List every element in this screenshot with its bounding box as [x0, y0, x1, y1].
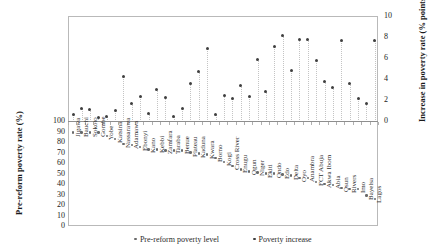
axis-tick-mark — [210, 122, 211, 125]
data-point-poverty-increase — [256, 58, 259, 61]
stem-line — [358, 99, 359, 122]
stem-line — [249, 97, 250, 122]
category-label: Ondo — [276, 162, 283, 178]
axis-tick-mark — [177, 122, 178, 125]
right-axis-tick: 0 — [384, 117, 388, 125]
category-label: Borno — [217, 144, 224, 162]
axis-tick-mark — [169, 122, 170, 125]
axis-tick-mark — [277, 122, 278, 125]
category-label: Osun — [343, 177, 350, 192]
left-axis-title: Pre-reform poverty rate (%) — [14, 103, 24, 223]
axis-tick-mark — [319, 122, 320, 125]
stem-line — [165, 98, 166, 122]
axis-tick-mark — [370, 122, 371, 125]
legend-item-pre-reform-poverty-level: Pre-reform poverty level — [134, 235, 219, 244]
stem-line — [224, 96, 225, 122]
data-point-poverty-increase — [197, 70, 200, 73]
category-label: Delta — [293, 164, 300, 179]
axis-tick-mark — [353, 122, 354, 125]
axis-tick-mark — [344, 122, 345, 125]
right-axis-tick: 10 — [384, 12, 392, 20]
data-point-poverty-increase — [315, 59, 318, 62]
axis-tick-mark — [160, 122, 161, 125]
axis-tick-mark — [361, 122, 362, 125]
category-label: Katsina — [117, 121, 124, 142]
category-label: Adamawa — [133, 121, 140, 149]
category-label: Imo — [360, 182, 367, 193]
category-label: Ekiti — [267, 164, 274, 178]
axis-tick-mark — [143, 122, 144, 125]
data-point-poverty-increase — [164, 96, 167, 99]
data-point-poverty-increase — [189, 82, 192, 85]
data-point-poverty-increase — [348, 82, 351, 85]
category-label: Rivers — [351, 175, 358, 193]
left-axis-tick-labels: 1009080706050403020100 — [40, 0, 65, 249]
data-point-poverty-increase — [114, 109, 117, 112]
category-label: Lagos — [376, 186, 383, 203]
category-label: Kebbi — [159, 136, 166, 153]
data-point-poverty-increase — [231, 97, 234, 100]
data-point-poverty-increase — [239, 84, 242, 87]
data-point-poverty-increase — [281, 34, 284, 37]
data-point-poverty-increase — [72, 113, 75, 116]
axis-tick-mark — [152, 122, 153, 125]
axis-tick-mark — [303, 122, 304, 125]
left-axis-tick: 40 — [57, 180, 65, 188]
category-label: Gombe — [100, 116, 107, 137]
category-label: Ogun — [251, 160, 258, 176]
left-axis-tick: 50 — [57, 170, 65, 178]
right-axis-tick: 8 — [384, 33, 388, 41]
axis-tick-mark — [68, 122, 69, 125]
axis-tick-mark — [252, 122, 253, 125]
category-label: Sokoto — [92, 117, 99, 137]
data-point-poverty-increase — [298, 38, 301, 41]
stem-line — [199, 72, 200, 122]
category-label: Kano — [150, 138, 157, 153]
axis-tick-mark — [378, 122, 379, 125]
data-point-poverty-increase — [155, 88, 158, 91]
chart-figure: Pre-reform poverty rate (%) Increase in … — [0, 0, 442, 249]
data-point-poverty-increase — [340, 39, 343, 42]
left-axis-tick: 30 — [57, 191, 65, 199]
axis-tick-mark — [219, 122, 220, 125]
data-point-poverty-increase — [139, 95, 142, 98]
axis-tick-mark — [202, 122, 203, 125]
stem-line — [266, 92, 267, 122]
category-label: Jigawa — [75, 117, 82, 136]
data-point-poverty-increase — [130, 102, 133, 105]
stem-line — [123, 77, 124, 122]
category-label: Akwa Ibom — [326, 155, 333, 188]
legend-dot-icon — [253, 238, 256, 241]
category-label: Bauchi — [83, 117, 90, 137]
category-label: Taraba — [175, 135, 182, 154]
category-label: Kaduna — [200, 136, 207, 158]
stem-line — [341, 40, 342, 122]
stem-line — [325, 81, 326, 122]
left-axis-tick: 70 — [57, 149, 65, 157]
left-axis-tick: 80 — [57, 138, 65, 146]
legend-label: Pre-reform poverty level — [140, 235, 219, 244]
right-axis-title: Increase in poverty rate (% points) — [417, 2, 427, 122]
category-label: Edo — [284, 167, 291, 178]
legend-label: Poverty increase — [259, 235, 312, 244]
stem-line — [241, 85, 242, 122]
axis-tick-mark — [194, 122, 195, 125]
data-point-poverty-increase — [264, 90, 267, 93]
axis-tick-mark — [286, 122, 287, 125]
stem-line — [274, 46, 275, 122]
category-label: Cross River — [234, 137, 241, 170]
stem-line — [291, 71, 292, 122]
data-point-poverty-increase — [290, 69, 293, 72]
category-label: Ebonyi — [142, 131, 149, 151]
right-axis-tick: 6 — [384, 54, 388, 62]
stem-line — [283, 36, 284, 122]
axis-tick-mark — [244, 122, 245, 125]
stem-line — [308, 39, 309, 122]
category-label: Nassarawa — [125, 118, 132, 148]
category-label: Yobe — [108, 125, 115, 139]
axis-tick-mark — [294, 122, 295, 125]
axis-tick-mark — [261, 122, 262, 125]
stem-line — [375, 40, 376, 122]
axis-tick-mark — [236, 122, 237, 125]
category-label: Oyo — [301, 170, 308, 182]
